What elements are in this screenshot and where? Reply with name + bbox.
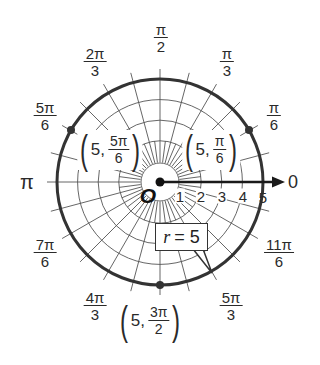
polar-axis-arrowhead — [272, 177, 285, 188]
point-5-3pi-2 — [156, 281, 164, 289]
angle-label-pi: π — [20, 171, 34, 194]
radial-tick-4: 4 — [238, 189, 248, 204]
angle-label-zero: 0 — [288, 172, 298, 193]
coord-label-5-5pi-6: ( 5, 5π 6 ) — [77, 130, 142, 170]
coord-label-5-pi-6: ( 5, π 6 ) — [182, 130, 240, 170]
pole-point — [156, 178, 165, 187]
angle-label-7pi-over-6: 7π 6 — [34, 237, 57, 269]
callout-pointer — [193, 249, 212, 273]
coord-label-5-3pi-2: ( 5, 3π 2 ) — [117, 301, 182, 341]
callout-r-equals-5: r = 5 — [155, 223, 208, 251]
angle-label-5pi-over-6: 5π 6 — [34, 100, 57, 132]
origin-label: O — [140, 184, 156, 208]
angle-label-pi-over-3: π 3 — [220, 46, 234, 78]
angle-label-5pi-over-3: 5π 3 — [220, 290, 243, 322]
radial-tick-1: 1 — [175, 189, 185, 204]
radial-tick-3: 3 — [217, 189, 227, 204]
angle-label-pi-over-2: π 2 — [154, 22, 168, 54]
angle-label-11pi-over-6: 11π 6 — [264, 237, 294, 269]
point-5-pi-6 — [245, 126, 253, 134]
angle-label-pi-over-6: π 6 — [267, 100, 281, 132]
angle-label-4pi-over-3: 4π 3 — [84, 290, 107, 322]
point-5-5pi-6 — [67, 126, 75, 134]
angle-label-2pi-over-3: 2π 3 — [84, 46, 107, 78]
radial-tick-2: 2 — [196, 189, 206, 204]
radial-tick-5: 5 — [258, 190, 268, 205]
